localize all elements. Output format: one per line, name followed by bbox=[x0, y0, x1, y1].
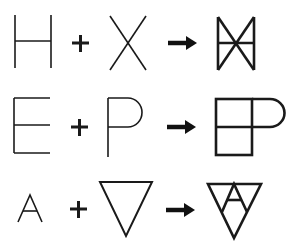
result-h-x bbox=[218, 17, 254, 70]
letter-a bbox=[18, 195, 42, 222]
letter-x bbox=[110, 16, 146, 70]
plus-icon bbox=[70, 201, 87, 218]
arrow-right-icon bbox=[167, 120, 196, 134]
result-a-triangle bbox=[208, 184, 261, 238]
arrow-right-icon bbox=[166, 203, 195, 217]
row-1 bbox=[15, 15, 254, 70]
diagram-canvas bbox=[0, 0, 296, 248]
result-e-p bbox=[216, 99, 285, 155]
row-2 bbox=[14, 98, 285, 157]
row-3 bbox=[18, 182, 261, 238]
letter-p bbox=[108, 98, 142, 157]
plus-icon bbox=[71, 119, 88, 136]
arrow-right-icon bbox=[168, 36, 197, 50]
inverted-triangle bbox=[100, 182, 152, 236]
letter-h bbox=[15, 15, 51, 68]
letter-e bbox=[14, 98, 50, 153]
plus-icon bbox=[72, 35, 89, 52]
